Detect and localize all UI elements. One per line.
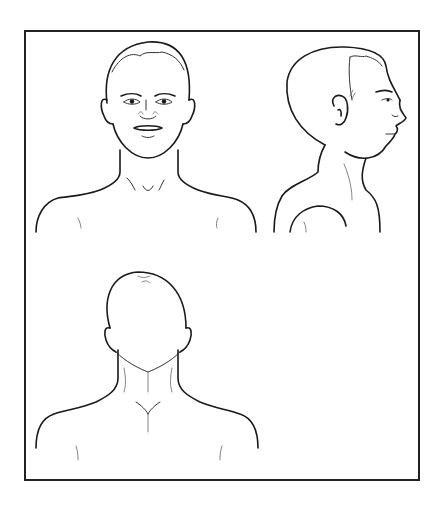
- side-view-figure: [274, 47, 406, 232]
- front-view-figure: [36, 42, 256, 232]
- head-diagram: [0, 0, 442, 510]
- back-view-figure: [36, 272, 258, 460]
